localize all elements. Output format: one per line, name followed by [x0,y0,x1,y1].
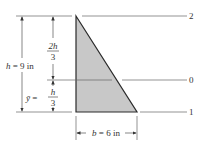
reference-label-1: 1 [189,107,194,117]
upper-fraction-numerator: 2h [49,41,59,51]
lower-fraction-numerator: h [51,87,56,97]
reference-label-0: 0 [189,75,194,85]
reference-label-2: 2 [189,11,194,21]
centroid-label: ȳ = [25,93,37,103]
lower-fraction-denominator: 3 [51,98,56,108]
base-label: b = 6 in [92,128,120,138]
upper-fraction-denominator: 3 [51,52,56,62]
triangle-shape [76,16,137,112]
height-label: h = 9 in [6,61,34,71]
triangle-diagram: 2 0 1 h = 9 in 2h 3 ȳ = h 3 b = 6 in [0,0,200,149]
